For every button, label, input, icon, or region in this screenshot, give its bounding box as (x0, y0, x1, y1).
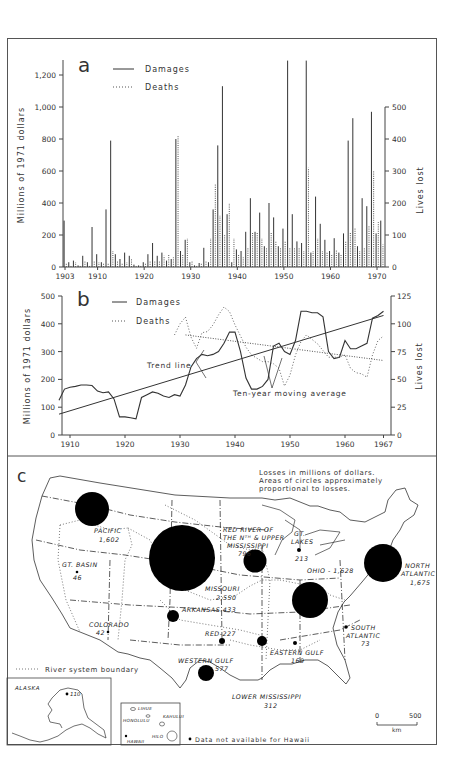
y-tick-label-right: 125 (397, 292, 412, 301)
label-north-atlantic-2: ATLANTIC (400, 570, 435, 577)
value-gt-lakes: 213 (295, 555, 309, 562)
y-axis-label-left: Millions of 1971 dollars (17, 107, 26, 223)
x-tick-label: 1940 (228, 272, 247, 281)
x-ticks: 1910192019301940195019601967 (60, 435, 393, 449)
scale-min: 0 (375, 712, 379, 720)
label-lower-mississippi: LOWER MISSISSIPPI (232, 693, 301, 700)
y-tick-label-right: 25 (397, 403, 407, 412)
label-gt-lakes-2: LAKES (291, 538, 313, 545)
y-ticks-right: 0100200300400500 (385, 103, 407, 272)
circle-north-atlantic (364, 544, 402, 582)
panel-a-chart: a Damages Deaths 02004006008001,0001,200… (17, 53, 425, 281)
map-caption-line1: Losses in millions of dollars. (259, 469, 375, 477)
x-tick-label: 1930 (181, 272, 200, 281)
label-kahului: KAHULUI (163, 714, 184, 719)
y-tick-label-right: 100 (392, 231, 407, 240)
label-south-atlantic-1: SOUTH (351, 624, 376, 631)
circle-eastern-gulf (293, 641, 297, 645)
y-tick-label: 0 (51, 263, 56, 272)
x-tick-label: 1967 (374, 440, 393, 449)
x-tick-label: 1960 (321, 272, 340, 281)
lines (59, 307, 384, 419)
y-tick-label-right: 100 (397, 320, 412, 329)
y-tick-label-right: 50 (397, 375, 407, 384)
label-gt-lakes-1: GT. (294, 530, 305, 537)
label-eastern-gulf: EASTERN GULF (270, 649, 324, 656)
y-tick-label: 100 (41, 403, 56, 412)
x-tick-label: 1960 (335, 440, 354, 449)
legend-boundary-label: River system boundary (45, 666, 139, 674)
circle-western-gulf (198, 665, 214, 681)
island-hawaii (167, 731, 177, 741)
scale-max: 500 (409, 712, 421, 720)
y-tick-label: 600 (42, 167, 57, 176)
x-tick-label: 1930 (170, 440, 189, 449)
y-axis-label-right: Lives lost (416, 166, 425, 213)
panel-c-label: c (17, 466, 26, 486)
panel-b-chart: b Damages Deaths 0100200300400500 Millio… (23, 287, 424, 449)
island-kauai (131, 708, 136, 711)
y-tick-label: 800 (42, 135, 57, 144)
label-hawaii: HAWAII (127, 739, 145, 744)
x-tick-label: 1910 (60, 440, 79, 449)
island-maui (160, 722, 165, 726)
label-red-river-1: RED RIVER OF (223, 526, 274, 533)
label-lihue: LIHUE (138, 706, 152, 711)
value-missouri: 2,550 (216, 594, 237, 601)
bars (64, 61, 383, 267)
label-red: RED-227 (205, 630, 236, 637)
circle-missouri (149, 525, 215, 591)
label-ohio: OHIO - 1,628 (307, 567, 354, 574)
y-tick-label-right: 75 (397, 348, 407, 357)
y-ticks-left: 02004006008001,0001,200 (35, 71, 63, 272)
y-axis-label-right: Lives lost (415, 342, 424, 389)
label-western-gulf: WESTERN GULF (178, 657, 234, 664)
value-gt-basin: 46 (73, 574, 82, 581)
y-tick-label: 200 (42, 231, 57, 240)
moving-average-label: Ten-year moving average (232, 389, 347, 398)
circle-colorado (107, 631, 110, 634)
x-tick-label: 1950 (274, 272, 293, 281)
circle-arkansas (167, 610, 179, 622)
label-missouri: MISSOURI (205, 585, 240, 592)
x-tick-label: 1970 (367, 272, 386, 281)
y-tick-label: 300 (41, 348, 56, 357)
legend-deaths-label: Deaths (136, 317, 170, 326)
y-tick-label: 0 (50, 431, 55, 440)
value-eastern-gulf: 169 (291, 657, 305, 664)
alaska-outline (12, 688, 106, 742)
circle-lower-mississippi (257, 636, 267, 646)
y-tick-label-right: 400 (392, 135, 407, 144)
y-tick-label-right: 500 (392, 103, 407, 112)
label-red-river-2: THE Nᵀᴴ & UPPER (223, 534, 285, 541)
legend-damages-label: Damages (136, 298, 181, 307)
x-tick-label: 1903 (55, 272, 74, 281)
legend-damages-label: Damages (145, 65, 190, 74)
x-tick-label: 1940 (225, 440, 244, 449)
no-data-marker (189, 738, 192, 741)
value-south-atlantic: 73 (361, 640, 370, 647)
panel-c-map: c Losses in millions of dollars. Areas o… (7, 466, 435, 745)
label-arkansas: ARKANSAS 433 (181, 606, 236, 613)
label-honolulu: HONOLULU (123, 718, 150, 723)
value-alaska: 110 (70, 691, 81, 697)
scale-bar: 0 500 km (375, 712, 421, 733)
scale-unit: km (392, 726, 401, 733)
circle-gt-basin (76, 571, 79, 574)
y-tick-label-right: 0 (392, 263, 397, 272)
y-ticks-left: 0100200300400500 (41, 292, 62, 440)
label-north-atlantic-1: NORTH (405, 562, 430, 569)
x-tick-label: 1910 (88, 272, 107, 281)
x-tick-label: 1950 (280, 440, 299, 449)
damages-trend-line (59, 315, 384, 414)
panel-a-label: a (78, 53, 90, 77)
label-pacific: PACIFIC (94, 527, 122, 534)
y-axis-label-left: Millions of 1971 dollars (23, 308, 32, 424)
island-oahu (146, 715, 150, 718)
circle-gt-lakes (297, 548, 301, 552)
hawaii-note: Data not available for Hawaii (195, 736, 310, 743)
y-tick-label: 400 (41, 320, 56, 329)
circle-red (219, 638, 225, 644)
circle-ohio (292, 582, 328, 618)
deaths-trend-line (186, 335, 384, 361)
